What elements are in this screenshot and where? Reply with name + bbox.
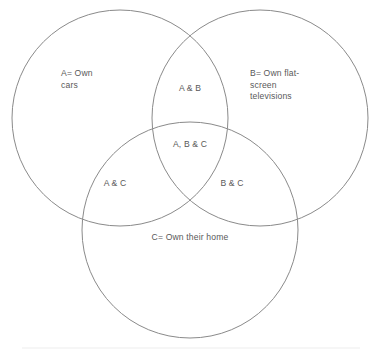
region-b-and-c-label: B & C [202, 178, 262, 190]
region-a-and-c-label: A & C [85, 178, 145, 190]
region-a-b-and-c-label: A, B & C [155, 139, 225, 151]
set-c-label: C= Own their home [110, 232, 270, 244]
venn-diagram-figure: A= Own cars B= Own flat- screen televisi… [0, 0, 381, 353]
set-b-label: B= Own flat- screen televisions [250, 68, 342, 103]
set-a-label: A= Own cars [61, 68, 141, 91]
venn-circles-canvas [0, 0, 381, 353]
figure-background [0, 0, 381, 353]
region-a-and-b-label: A & B [160, 83, 220, 95]
